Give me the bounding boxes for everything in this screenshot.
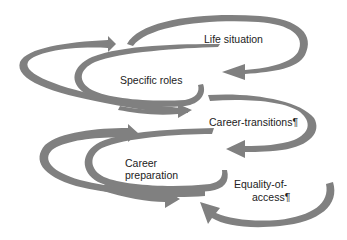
- cyclic-arrow-diagram: Life situation Specific roles Career-tra…: [0, 0, 347, 240]
- label-life-situation: Life situation: [204, 33, 263, 45]
- label-career-preparation-line2: preparation: [125, 169, 178, 181]
- label-specific-roles: Specific roles: [120, 74, 182, 86]
- label-equality-of-access-line1: Equality-of-: [234, 178, 287, 190]
- label-career-preparation-line1: Career: [125, 157, 157, 169]
- label-career-transitions: Career-transitions¶: [209, 116, 298, 128]
- label-equality-of-access-line2: access¶: [252, 191, 290, 203]
